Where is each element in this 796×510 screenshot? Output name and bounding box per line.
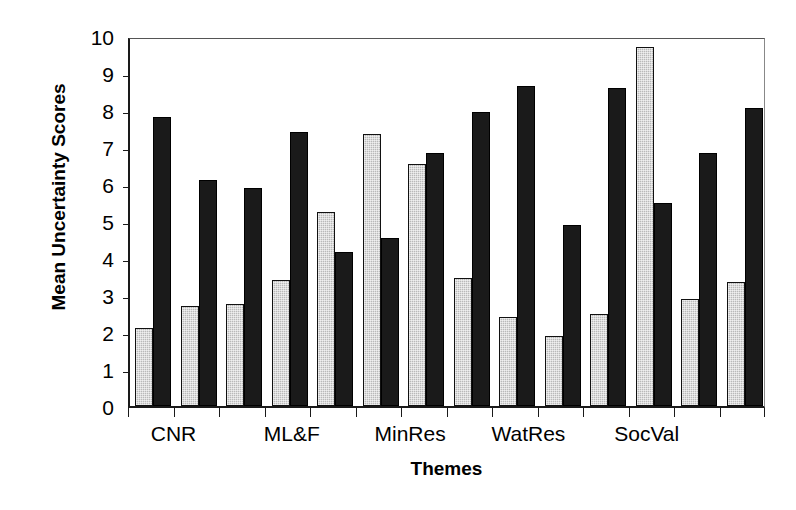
- y-tick-label: 10: [78, 27, 114, 49]
- x-tick-mark: [128, 408, 129, 417]
- y-tick-label: 5: [78, 212, 114, 234]
- x-tick-mark: [174, 408, 175, 417]
- x-tick-mark: [401, 408, 402, 417]
- bar-series-b-10: [563, 225, 581, 406]
- x-axis-label-socval: SocVal: [614, 422, 679, 446]
- y-tick-label: 3: [78, 286, 114, 308]
- y-axis-title: Mean Uncertainty Scores: [48, 32, 70, 362]
- bar-series-a-14: [727, 282, 745, 406]
- bar-series-b-7: [426, 153, 444, 406]
- y-axis-tick-labels: 109876543210: [78, 28, 114, 420]
- bar-series-a-9: [499, 317, 517, 406]
- bar-series-a-7: [408, 164, 426, 406]
- y-tick-mark: [123, 150, 130, 151]
- y-tick-label: 8: [78, 101, 114, 123]
- bar-series-b-14: [745, 108, 763, 406]
- bar-series-a-5: [317, 212, 335, 406]
- x-axis-label-ml-f: ML&F: [264, 422, 320, 446]
- bar-series-a-2: [181, 306, 199, 406]
- y-tick-mark: [123, 335, 130, 336]
- x-tick-mark: [583, 408, 584, 417]
- x-tick-mark: [764, 408, 765, 417]
- x-tick-mark: [538, 408, 539, 417]
- bar-series-b-3: [244, 188, 262, 406]
- x-axis-title: Themes: [128, 458, 765, 480]
- bar-series-a-6: [363, 134, 381, 406]
- y-tick-label: 7: [78, 138, 114, 160]
- y-tick-label: 0: [78, 397, 114, 419]
- x-tick-mark: [674, 408, 675, 417]
- x-tick-mark: [447, 408, 448, 417]
- y-tick-label: 6: [78, 175, 114, 197]
- bar-series-a-10: [545, 336, 563, 406]
- x-axis-category-labels: CNRML&FMinResWatResSocVal: [128, 422, 765, 452]
- y-tick-mark: [123, 261, 130, 262]
- bar-series-b-11: [608, 88, 626, 406]
- plot-area: [128, 38, 765, 408]
- bar-series-b-6: [381, 238, 399, 406]
- y-tick-mark: [123, 224, 130, 225]
- x-tick-mark: [629, 408, 630, 417]
- bar-series-b-13: [699, 153, 717, 406]
- bar-series-b-12: [654, 203, 672, 407]
- bar-series-b-8: [472, 112, 490, 406]
- x-axis-label-watres: WatRes: [491, 422, 565, 446]
- bar-series-b-4: [290, 132, 308, 406]
- x-tick-mark: [720, 408, 721, 417]
- x-axis-tick-marks: [128, 408, 765, 418]
- bar-series-b-9: [517, 86, 535, 406]
- y-tick-mark: [123, 113, 130, 114]
- x-tick-mark: [310, 408, 311, 417]
- bar-chart: Mean Uncertainty Scores 109876543210 CNR…: [0, 0, 796, 510]
- bar-series-a-3: [226, 304, 244, 406]
- bar-series-a-12: [636, 47, 654, 406]
- y-tick-label: 2: [78, 323, 114, 345]
- bar-series-b-5: [335, 252, 353, 406]
- y-tick-mark: [123, 187, 130, 188]
- x-tick-mark: [265, 408, 266, 417]
- y-tick-label: 1: [78, 360, 114, 382]
- y-tick-mark: [123, 76, 130, 77]
- x-tick-mark: [219, 408, 220, 417]
- bar-series-b-1: [153, 117, 171, 406]
- bar-series-a-4: [272, 280, 290, 406]
- y-tick-mark: [123, 372, 130, 373]
- bar-series-a-13: [681, 299, 699, 406]
- bar-series-b-2: [199, 180, 217, 406]
- bar-series-a-8: [454, 278, 472, 406]
- y-tick-label: 9: [78, 64, 114, 86]
- x-axis-label-minres: MinRes: [375, 422, 446, 446]
- bars-layer: [130, 39, 764, 406]
- y-tick-mark: [123, 298, 130, 299]
- bar-series-a-11: [590, 314, 608, 407]
- x-axis-label-cnr: CNR: [151, 422, 197, 446]
- x-tick-mark: [356, 408, 357, 417]
- bar-series-a-1: [135, 328, 153, 406]
- x-tick-mark: [492, 408, 493, 417]
- y-tick-label: 4: [78, 249, 114, 271]
